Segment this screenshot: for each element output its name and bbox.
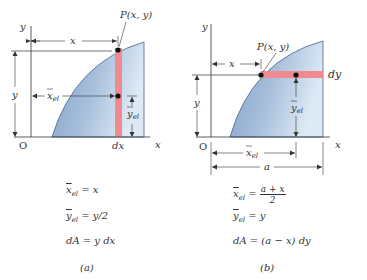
arrow-icon xyxy=(13,51,18,56)
centroid-diagram: y x O P(x, y) x y xel yel dx xyxy=(0,0,367,280)
centroid-marker xyxy=(293,72,298,77)
dy-label: dy xyxy=(328,68,342,81)
area-region-a xyxy=(52,42,144,137)
origin-label: O xyxy=(199,141,207,152)
arrow-icon xyxy=(290,151,295,156)
point-p-marker xyxy=(258,72,263,77)
dx-label: dx xyxy=(112,140,124,151)
x-dim-label: x xyxy=(70,35,76,46)
equation-b-yel: yel = y xyxy=(233,210,265,224)
arrow-icon xyxy=(212,151,217,156)
caption-a: (a) xyxy=(80,262,94,273)
y-axis-label: y xyxy=(201,21,208,32)
arrow-icon xyxy=(32,94,37,99)
point-label: P(x, y) xyxy=(119,9,152,20)
y-dim-label: y xyxy=(193,97,200,108)
leader-line xyxy=(119,22,126,47)
origin-label: O xyxy=(19,140,27,151)
y-axis-label: y xyxy=(19,21,26,32)
point-p-marker xyxy=(115,47,120,52)
x-dim-label: x xyxy=(229,58,235,69)
equation-b-xel: xel = a + x 2 xyxy=(233,184,286,205)
arrow-icon xyxy=(195,132,200,137)
arrow-icon xyxy=(212,62,217,67)
equation-a-yel: yel = y/2 xyxy=(66,210,108,224)
horizontal-strip xyxy=(261,71,323,78)
point-label: P(x, y) xyxy=(256,41,289,52)
xel-label: xel xyxy=(47,90,59,103)
x-axis-label: x xyxy=(335,139,341,150)
arrow-icon xyxy=(195,75,200,80)
arrow-icon xyxy=(13,132,18,137)
centroid-marker xyxy=(115,93,120,98)
area-region-b xyxy=(230,41,323,137)
equation-a-da: dA = y dx xyxy=(66,235,115,246)
equation-b-da: dA = (a − x) dy xyxy=(233,235,311,246)
caption-b: (b) xyxy=(260,262,274,273)
equation-a-xel: xel = x xyxy=(66,184,98,198)
arrow-icon xyxy=(255,62,260,67)
arrow-icon xyxy=(31,39,36,44)
a-dim-label: a xyxy=(264,161,270,172)
x-axis-label: x xyxy=(155,139,161,150)
panel-b: y x O P(x, y) x y dy yel xel a xyxy=(192,21,342,175)
y-dim-label: y xyxy=(11,89,18,100)
vertical-strip xyxy=(115,48,122,137)
arrow-icon xyxy=(212,165,217,170)
panel-a: y x O P(x, y) x y xel yel dx xyxy=(11,9,161,151)
arrow-icon xyxy=(317,165,322,170)
xel-label: xel xyxy=(246,147,258,160)
